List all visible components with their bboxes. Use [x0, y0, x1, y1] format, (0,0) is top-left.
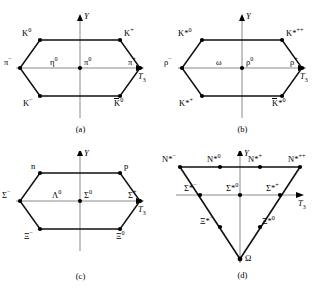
- vertex-label-pi-plus: π+: [128, 58, 136, 67]
- center-label-omega: ω: [216, 58, 222, 67]
- vertex-label-kstar0: K*0: [178, 29, 191, 38]
- panel-b-caption: (b): [162, 124, 323, 134]
- panel-a-caption: (a): [0, 124, 161, 134]
- vertex-label-k0: K0: [22, 29, 31, 38]
- center-label-lambda0: Λ0: [52, 191, 61, 200]
- panel-a-pseudoscalar-meson-octet: Y T3 K0 K+ π− π+ η0 π0 K− K0 (a): [0, 0, 161, 151]
- t3-axis-label: T3: [138, 72, 146, 81]
- vertex-label-proton: p: [124, 162, 128, 171]
- vertex-label-sigma-minus: Σ−: [2, 191, 10, 200]
- y-axis-label: Y: [84, 149, 89, 158]
- y-axis-label: Y: [84, 12, 89, 21]
- panel-b-vector-meson-nonet: Y T3 K*0 K*++ ρ− ρ+ ω ρ0 K*+ K*0 (b): [162, 0, 323, 151]
- vertex-label-xi0: Ξ0: [116, 232, 125, 241]
- vertex-label-kbarstar0: K*0: [272, 99, 285, 108]
- figure-sheet: Y T3 K0 K+ π− π+ η0 π0 K− K0 (a): [0, 0, 323, 302]
- vertex-label-omega: Ω: [245, 254, 251, 263]
- point-label-xistar-minus: Ξ*−: [200, 217, 213, 226]
- axis-lines: [176, 153, 300, 263]
- t3-axis-label: T3: [138, 205, 146, 214]
- panel-c-caption: (c): [0, 271, 161, 281]
- y-axis-arrow: [77, 151, 83, 156]
- y-axis-arrow: [239, 14, 245, 21]
- point-label-nstar-plus: N*+: [248, 155, 262, 164]
- vertex-label-sigma-plus: Σ+: [128, 191, 136, 200]
- vertex-label-pi-minus: π−: [4, 58, 12, 67]
- point-label-xistar0: Ξ*0: [262, 217, 275, 226]
- vertex-label-nstar-plusplus: N*++: [288, 155, 305, 164]
- vertex-label-k-minus: K−: [23, 99, 33, 108]
- center-label-pi0: π0: [84, 58, 91, 67]
- t3-axis-label: T3: [300, 72, 308, 81]
- point-label-sigmastar-plus: Σ*+: [266, 184, 279, 193]
- vertex-label-xi-minus: Ξ−: [24, 232, 33, 241]
- vertex-label-nstar-minus: N*−: [162, 155, 176, 164]
- vertex-label-neutron: n: [31, 162, 35, 171]
- center-label-rho0: ρ0: [246, 58, 253, 67]
- vertex-label-kplus: K+: [124, 29, 134, 38]
- y-axis-arrow: [77, 14, 83, 21]
- point-label-sigmastar-minus: Σ*−: [184, 184, 197, 193]
- vertex-label-kstar-plus: K*+: [179, 99, 193, 108]
- panel-c-baryon-octet: Y T3 n p Σ− Σ+ Λ0 Σ0 Ξ− Ξ0 (c): [0, 151, 161, 302]
- point-label-sigmastar0: Σ*0: [226, 184, 238, 193]
- vertex-label-rho-minus: ρ−: [164, 58, 172, 67]
- y-axis-label: Y: [246, 12, 251, 21]
- vertex-label-rho-plus: ρ+: [290, 58, 298, 67]
- vertex-label-kstar-plusplus: K*++: [286, 29, 303, 38]
- t3-axis-label: T3: [298, 199, 306, 208]
- center-label-eta0: η0: [50, 58, 58, 67]
- panel-d-baryon-decuplet: Y T3 N*− N*0 N*+ N*++ Σ*− Σ*0 Σ*+ Ξ*− Ξ*…: [162, 151, 323, 302]
- center-label-sigma0: Σ0: [84, 191, 92, 200]
- panel-d-caption: (d): [162, 270, 323, 280]
- point-label-nstar0: N*0: [207, 155, 220, 164]
- y-axis-arrow: [237, 151, 243, 156]
- vertex-label-kbar0: K0: [114, 99, 123, 108]
